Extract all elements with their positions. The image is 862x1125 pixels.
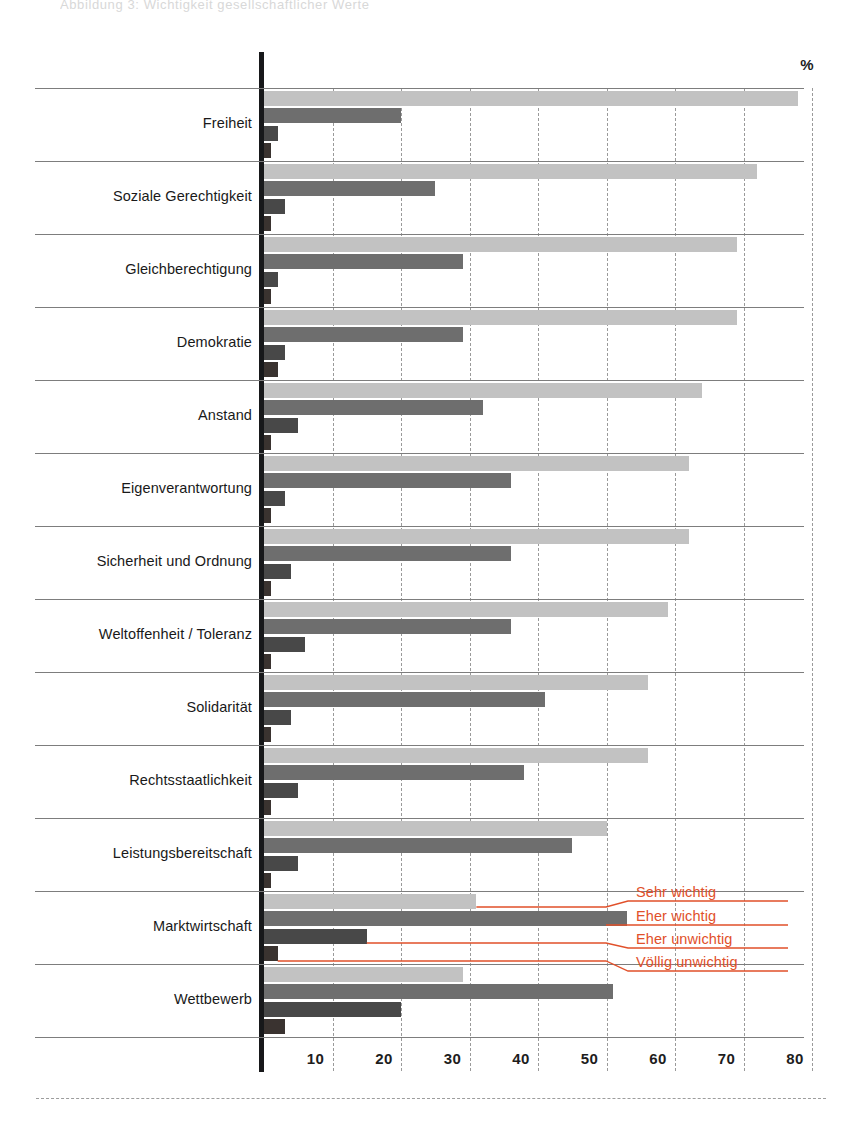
bar-1 [264,838,572,853]
x-axis-line [35,1037,804,1038]
bar-1 [264,692,545,707]
bar-3 [264,727,271,742]
bar-3 [264,581,271,596]
x-tick-70: 70 [718,1050,735,1067]
category-label-gleichberechtigung: Gleichberechtigung [125,261,252,277]
bar-2 [264,783,298,798]
bar-1 [264,473,511,488]
category-label-sicherheit-und-ordnung: Sicherheit und Ordnung [97,553,252,569]
bar-2 [264,710,291,725]
bar-1 [264,181,435,196]
bar-0 [264,91,798,106]
bar-0 [264,456,689,471]
axis-unit-label: % [800,56,814,73]
x-tick-50: 50 [581,1050,598,1067]
bar-1 [264,108,401,123]
bar-2 [264,199,285,214]
x-tick-10: 10 [307,1050,324,1067]
bar-1 [264,400,483,415]
category-label-eigenverantwortung: Eigenverantwortung [121,480,252,496]
bar-group: Leistungsbereitschaft [264,818,812,891]
category-label-anstand: Anstand [198,407,252,423]
bar-3 [264,143,271,158]
bar-group: Gleichberechtigung [264,234,812,307]
bar-1 [264,619,511,634]
plot-area: FreiheitSoziale GerechtigkeitGleichberec… [264,88,812,1037]
bar-group: Sicherheit und Ordnung [264,526,812,599]
bar-group: Weltoffenheit / Toleranz [264,599,812,672]
bar-3 [264,946,278,961]
bar-0 [264,310,737,325]
bar-0 [264,748,648,763]
bar-group: Eigenverantwortung [264,453,812,526]
bar-group: Demokratie [264,307,812,380]
bar-1 [264,984,613,999]
bar-3 [264,216,271,231]
bar-chart: % FreiheitSoziale GerechtigkeitGleichber… [0,0,862,1125]
bar-group: Wettbewerb [264,964,812,1037]
category-label-leistungsbereitschaft: Leistungsbereitschaft [113,845,252,861]
bar-3 [264,1019,285,1034]
bar-2 [264,564,291,579]
legend-label-0: Sehr wichtig [636,884,716,900]
category-label-wettbewerb: Wettbewerb [174,991,252,1007]
bar-0 [264,164,757,179]
bar-2 [264,637,305,652]
bar-2 [264,929,367,944]
x-tick-40: 40 [512,1050,529,1067]
category-label-solidarit-t: Solidarität [186,699,252,715]
legend-label-1: Eher wichtig [636,908,716,924]
x-tick-60: 60 [649,1050,666,1067]
category-label-rechtsstaatlichkeit: Rechtsstaatlichkeit [129,772,252,788]
category-label-marktwirtschaft: Marktwirtschaft [153,918,252,934]
bar-0 [264,529,689,544]
bar-3 [264,508,271,523]
bar-0 [264,894,476,909]
bar-3 [264,800,271,815]
bar-0 [264,967,463,982]
bar-1 [264,765,524,780]
category-label-freiheit: Freiheit [203,115,252,131]
category-label-weltoffenheit-toleranz: Weltoffenheit / Toleranz [99,626,252,642]
x-tick-20: 20 [375,1050,392,1067]
x-tick-30: 30 [444,1050,461,1067]
bar-2 [264,418,298,433]
bar-group: Freiheit [264,88,812,161]
bar-group: Soziale Gerechtigkeit [264,161,812,234]
bar-2 [264,345,285,360]
legend-label-2: Eher unwichtig [636,931,733,947]
bar-group: Anstand [264,380,812,453]
bar-2 [264,491,285,506]
bar-1 [264,546,511,561]
bar-3 [264,289,271,304]
bar-0 [264,602,668,617]
bar-0 [264,821,607,836]
bar-3 [264,654,271,669]
bar-0 [264,237,737,252]
bar-group: Rechtsstaatlichkeit [264,745,812,818]
category-label-demokratie: Demokratie [177,334,252,350]
bar-2 [264,126,278,141]
category-label-soziale-gerechtigkeit: Soziale Gerechtigkeit [113,188,252,204]
bar-3 [264,435,271,450]
bar-2 [264,856,298,871]
footer-rule [36,1098,826,1099]
bar-1 [264,327,463,342]
bar-2 [264,272,278,287]
bar-0 [264,675,648,690]
bar-3 [264,362,278,377]
bar-1 [264,911,627,926]
bar-1 [264,254,463,269]
bar-group: Solidarität [264,672,812,745]
legend-label-3: Völlig unwichtig [636,954,738,970]
bar-0 [264,383,702,398]
bar-3 [264,873,271,888]
gridline-80 [812,88,813,1071]
bar-2 [264,1002,401,1017]
x-tick-80: 80 [786,1050,803,1067]
